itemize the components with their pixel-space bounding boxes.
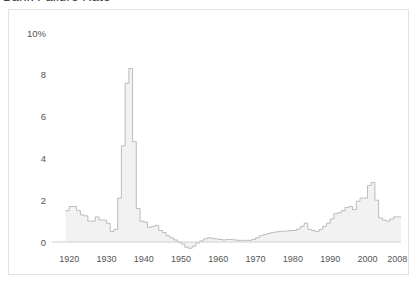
x-tick-label: 1990 — [320, 254, 340, 264]
area-fill-path — [65, 69, 401, 249]
x-tick-label: 1920 — [59, 254, 79, 264]
x-axis-tick-labels: 1920193019401950196019701980199020002008 — [59, 254, 407, 264]
area-chart: 0246810% 1920193019401950196019701980199… — [9, 10, 408, 274]
chart-area-fill — [65, 69, 401, 249]
chart-card: 0246810% 1920193019401950196019701980199… — [8, 9, 409, 275]
x-tick-label: 1930 — [96, 254, 116, 264]
x-tick-label: 1980 — [283, 254, 303, 264]
x-tick-label: 1950 — [171, 254, 191, 264]
y-tick-label: 0 — [41, 237, 46, 248]
y-tick-label: 10% — [27, 28, 47, 39]
y-axis-tick-labels: 0246810% — [27, 28, 47, 248]
x-tick-label: 2000 — [357, 254, 377, 264]
page-title: Bank Failure Rate — [3, 0, 110, 4]
y-tick-label: 2 — [41, 195, 46, 206]
chart-page: Bank Failure Rate 0246810% 1920193019401… — [0, 0, 417, 282]
x-tick-label: 1970 — [246, 254, 266, 264]
x-tick-label: 2008 — [387, 254, 407, 264]
x-tick-label: 1960 — [208, 254, 228, 264]
y-tick-label: 4 — [41, 153, 46, 164]
page-header: Bank Failure Rate — [0, 0, 417, 6]
x-tick-label: 1940 — [134, 254, 154, 264]
chart-plot-area: 0246810% 1920193019401950196019701980199… — [9, 10, 408, 274]
y-tick-label: 6 — [41, 111, 46, 122]
y-tick-label: 8 — [41, 69, 46, 80]
